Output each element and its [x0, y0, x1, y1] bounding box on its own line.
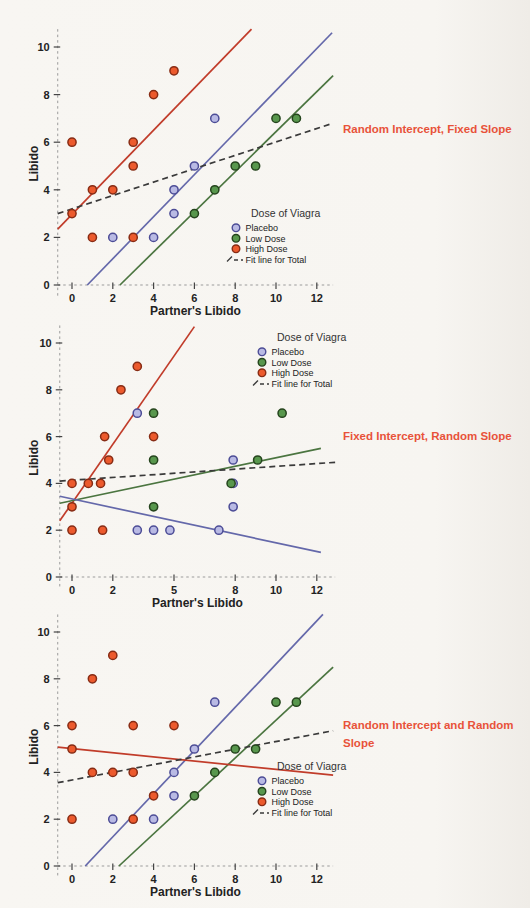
svg-text:10: 10 [37, 41, 49, 53]
high_dose-point [88, 186, 96, 194]
low_dose-point [190, 210, 198, 218]
svg-text:0: 0 [44, 860, 50, 872]
fit-line-placebo-fit [87, 33, 332, 285]
legend-total-fit-swatch [253, 810, 258, 815]
scatter-plot-fixed-intercept-random-slope: 025810120246810Partner's LibidoLibidoDos… [0, 318, 530, 614]
svg-text:8: 8 [44, 673, 50, 685]
series-low_dose [190, 114, 300, 217]
high_dose-point [68, 815, 76, 823]
low_dose-point [211, 768, 219, 776]
legend-low_dose-swatch [258, 359, 266, 367]
legend-high_dose-swatch [258, 369, 266, 377]
low_dose-point [211, 186, 219, 194]
legend: Dose of ViagraPlaceboLow DoseHigh DoseFi… [227, 207, 320, 265]
svg-text:0: 0 [69, 292, 75, 304]
axes: 0246810120246810Partner's LibidoLibido [27, 29, 333, 318]
svg-text:2: 2 [110, 584, 116, 596]
placebo-point [229, 456, 237, 464]
fit-line-fit-line-for-total [58, 731, 333, 783]
high_dose-point [129, 722, 137, 730]
high_dose-point [68, 722, 76, 730]
placebo-point [211, 698, 219, 706]
high_dose-point [88, 768, 96, 776]
fit-lines [58, 614, 333, 866]
svg-text:8: 8 [232, 584, 238, 596]
legend-low_dose-swatch [258, 788, 266, 796]
legend-item-label: Low Dose [272, 787, 312, 797]
annotation-random-intercept-random-slope: Random Intercept and Random Slope [343, 716, 530, 753]
placebo-point [215, 526, 223, 534]
high_dose-point [133, 362, 141, 370]
legend-item-label: High Dose [272, 797, 314, 807]
fit-lines [58, 29, 333, 285]
high_dose-point [150, 91, 158, 99]
x-axis-title: Partner's Libido [150, 304, 241, 318]
svg-text:0: 0 [69, 873, 75, 885]
svg-text:10: 10 [270, 873, 282, 885]
high_dose-point [129, 162, 137, 170]
series-high_dose [68, 651, 178, 823]
placebo-point [133, 526, 141, 534]
low_dose-point [254, 456, 262, 464]
fit-line-high-dose-fit [60, 327, 195, 521]
placebo-point [170, 768, 178, 776]
legend-item-label: High Dose [272, 368, 314, 378]
legend-placebo-swatch [258, 348, 266, 356]
svg-text:4: 4 [46, 477, 53, 489]
svg-text:12: 12 [311, 292, 323, 304]
placebo-point [170, 792, 178, 800]
low_dose-point [252, 162, 260, 170]
low_dose-point [227, 479, 235, 487]
legend-item-label: High Dose [246, 244, 288, 254]
low_dose-point [272, 114, 280, 122]
high_dose-point [68, 479, 76, 487]
svg-text:5: 5 [171, 584, 177, 596]
placebo-point [170, 210, 178, 218]
fit-line-low-dose-fit [60, 448, 321, 503]
high_dose-point [88, 233, 96, 241]
low_dose-point [292, 698, 300, 706]
high_dose-point [68, 745, 76, 753]
low_dose-point [292, 114, 300, 122]
svg-text:8: 8 [232, 292, 238, 304]
svg-text:8: 8 [44, 89, 50, 101]
legend-high_dose-swatch [232, 245, 240, 253]
high_dose-point [170, 722, 178, 730]
low_dose-point [231, 162, 239, 170]
placebo-point [133, 409, 141, 417]
svg-text:12: 12 [311, 584, 323, 596]
high_dose-point [170, 67, 178, 75]
svg-text:0: 0 [69, 584, 75, 596]
high_dose-point [96, 479, 104, 487]
chart-random-intercept-fixed-slope: 0246810120246810Partner's LibidoLibidoDo… [0, 8, 530, 320]
svg-text:8: 8 [232, 873, 238, 885]
low_dose-point [278, 409, 286, 417]
placebo-point [211, 114, 219, 122]
high_dose-point [150, 433, 158, 441]
svg-text:10: 10 [270, 584, 282, 596]
high_dose-point [109, 651, 117, 659]
x-axis-title: Partner's Libido [150, 885, 241, 899]
scanned-figure-page: 0246810120246810Partner's LibidoLibidoDo… [0, 0, 530, 908]
high_dose-point [109, 768, 117, 776]
svg-text:10: 10 [37, 626, 49, 638]
high_dose-point [68, 526, 76, 534]
placebo-point [166, 526, 174, 534]
legend-item-label: Placebo [272, 776, 305, 786]
placebo-point [150, 815, 158, 823]
low_dose-point [150, 409, 158, 417]
svg-text:4: 4 [151, 873, 158, 885]
legend-item-label: Placebo [272, 347, 305, 357]
svg-text:2: 2 [110, 292, 116, 304]
svg-text:6: 6 [44, 720, 50, 732]
svg-text:10: 10 [40, 337, 52, 349]
legend: Dose of ViagraPlaceboLow DoseHigh DoseFi… [253, 331, 346, 389]
y-axis-title: Libido [27, 729, 41, 765]
svg-text:2: 2 [46, 524, 52, 536]
placebo-point [109, 233, 117, 241]
svg-text:8: 8 [46, 384, 52, 396]
svg-text:6: 6 [44, 136, 50, 148]
legend-title: Dose of Viagra [251, 207, 320, 219]
legend-placebo-swatch [258, 777, 266, 785]
annotation-fixed-intercept-random-slope: Fixed Intercept, Random Slope [343, 427, 512, 445]
